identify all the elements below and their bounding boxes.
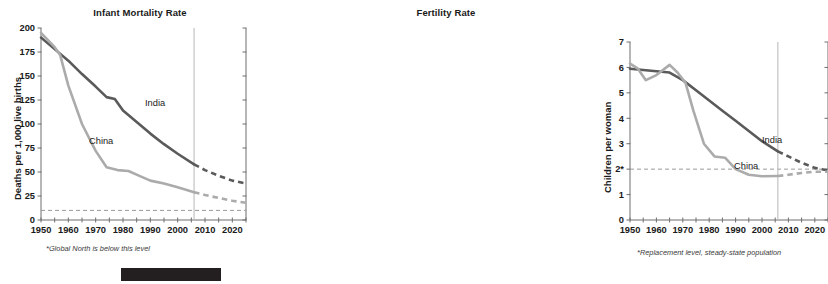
series-projection-china xyxy=(194,192,246,203)
series-label-china: China xyxy=(734,161,759,171)
y-tick-label: 1 xyxy=(619,190,624,200)
x-tick-label: 1970 xyxy=(672,225,693,235)
black-caption-bar xyxy=(121,268,221,281)
series-projection-china xyxy=(778,172,828,176)
x-tick-label: 2020 xyxy=(222,225,243,235)
page-title-left: Infant Mortality Rate xyxy=(0,7,286,18)
x-tick-label: 1950 xyxy=(620,225,641,235)
y-tick-label: 5 xyxy=(619,88,624,98)
panel-infant-mortality: Infant Mortality Rate Deaths per 1,000 l… xyxy=(0,0,292,284)
y-tick-label: 100 xyxy=(19,119,35,129)
series-line-china xyxy=(630,64,778,177)
y-tick-label: 50 xyxy=(25,167,35,177)
x-tick-label: 1990 xyxy=(140,225,161,235)
series-line-india xyxy=(630,69,778,152)
series-projection-india xyxy=(778,151,828,170)
page-title-right: Fertility Rate xyxy=(300,7,592,18)
y-axis-label-right: Children per woman xyxy=(602,102,613,193)
y-tick-label: 25 xyxy=(25,191,35,201)
y-tick-label: 0 xyxy=(30,215,35,225)
series-label-india: India xyxy=(762,135,783,145)
y-tick-label: 2* xyxy=(615,164,624,174)
x-tick-label: 1950 xyxy=(31,225,52,235)
y-tick-label: 7 xyxy=(619,37,624,47)
footnote-right: *Replacement level, steady-state populat… xyxy=(637,248,781,257)
y-tick-label: 4 xyxy=(619,114,625,124)
y-tick-label: 0 xyxy=(619,215,624,225)
series-line-india xyxy=(41,38,194,165)
x-tick-label: 1980 xyxy=(113,225,134,235)
panel-fertility-rate: Fertility Rate Children per woman 012*34… xyxy=(292,0,584,284)
chart-plot-left: 0255075100125150175200195019601970198019… xyxy=(41,28,246,220)
chart-plot-right: 012*345671950196019701980199020002010202… xyxy=(630,42,828,220)
x-tick-label: 1960 xyxy=(58,225,79,235)
footnote-left: *Global North is below this level xyxy=(46,244,150,253)
y-tick-label: 200 xyxy=(19,23,35,33)
y-tick-label: 175 xyxy=(19,47,35,57)
series-label-india: India xyxy=(145,98,166,108)
x-tick-label: 1980 xyxy=(699,225,720,235)
y-tick-label: 75 xyxy=(25,143,35,153)
series-label-china: China xyxy=(89,136,114,146)
series-projection-india xyxy=(194,164,246,183)
x-tick-label: 2020 xyxy=(804,225,825,235)
y-tick-label: 6 xyxy=(619,63,624,73)
x-tick-label: 2000 xyxy=(167,225,188,235)
x-tick-label: 2010 xyxy=(195,225,216,235)
x-tick-label: 1970 xyxy=(85,225,106,235)
x-tick-label: 1960 xyxy=(646,225,667,235)
x-tick-label: 2010 xyxy=(778,225,799,235)
y-tick-label: 150 xyxy=(19,71,35,81)
x-tick-label: 2000 xyxy=(752,225,773,235)
x-tick-label: 1990 xyxy=(725,225,746,235)
y-tick-label: 125 xyxy=(19,95,35,105)
y-tick-label: 3 xyxy=(619,139,624,149)
